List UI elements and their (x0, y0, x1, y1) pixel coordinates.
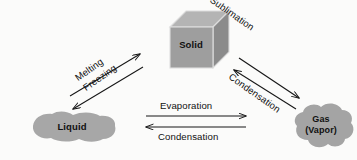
diagram-graphics (0, 0, 357, 160)
cube-front-face (170, 27, 213, 68)
node-solid-cube (170, 11, 229, 68)
phase-change-diagram: Solid Liquid Gas (Vapor) Melting Freezin… (0, 0, 357, 160)
liquid-blob-shape (33, 111, 116, 141)
node-liquid-blob (33, 111, 116, 141)
gas-cloud-shape (295, 103, 354, 147)
node-gas-cloud (295, 103, 354, 147)
